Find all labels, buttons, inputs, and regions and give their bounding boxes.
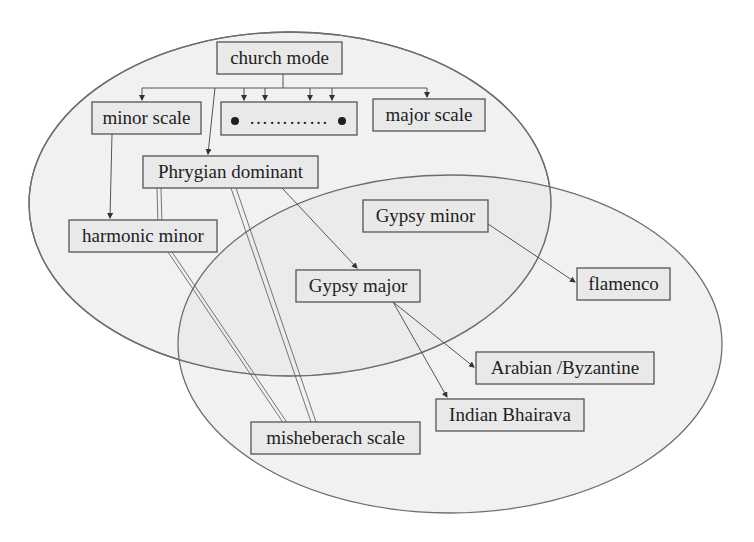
node-label: flamenco	[588, 273, 659, 294]
node-gypsy-minor: Gypsy minor	[363, 200, 488, 232]
node-label: Gypsy minor	[376, 205, 476, 226]
node-label: misheberach scale	[266, 427, 405, 448]
node-indian-bhairava: Indian Bhairava	[436, 399, 584, 431]
bullet-icon	[231, 117, 239, 125]
node-gypsy-major: Gypsy major	[296, 270, 420, 302]
node-label: church mode	[230, 47, 329, 68]
node-label: major scale	[385, 104, 472, 125]
node-phrygian-dominant: Phrygian dominant	[143, 156, 318, 188]
node-major-scale: major scale	[373, 99, 485, 131]
node-label: Gypsy major	[309, 275, 408, 296]
node-label: minor scale	[102, 107, 190, 128]
node-label: Arabian /Byzantine	[491, 357, 639, 378]
bullet-icon	[338, 117, 346, 125]
node-label: Phrygian dominant	[158, 161, 304, 182]
node-label: harmonic minor	[82, 225, 205, 246]
node-harmonic-minor: harmonic minor	[69, 220, 217, 252]
ellipsis-dots: …………	[249, 107, 329, 128]
node-other-modes: …………	[221, 102, 357, 135]
scale-diagram: church mode minor scale ………… major scale…	[0, 0, 754, 542]
node-label: Indian Bhairava	[449, 404, 571, 425]
node-church-mode: church mode	[217, 42, 342, 74]
node-minor-scale: minor scale	[92, 102, 201, 134]
node-arabian-byzantine: Arabian /Byzantine	[476, 352, 654, 384]
node-flamenco: flamenco	[577, 268, 670, 300]
node-misheberach-scale: misheberach scale	[251, 422, 420, 454]
